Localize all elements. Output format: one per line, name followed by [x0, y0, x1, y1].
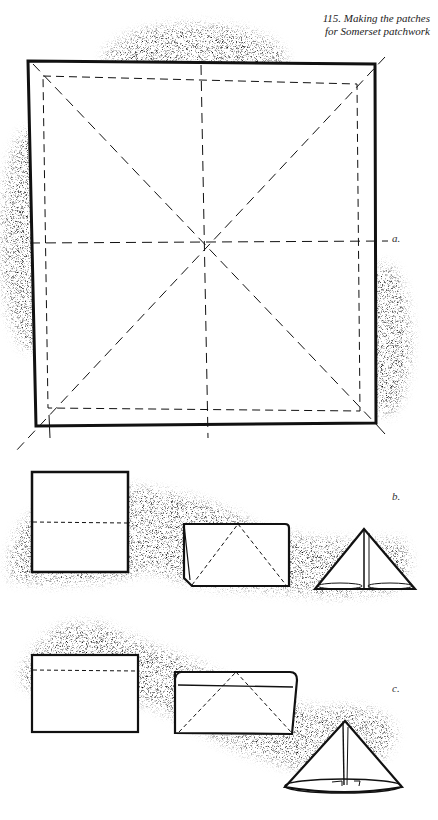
caption-line-2: for Somerset patchwork: [323, 25, 430, 38]
figure-c-folded-rectangle: [175, 672, 297, 734]
figure-a-square: [15, 57, 388, 452]
figure-b-folded-rectangle: [184, 524, 289, 586]
caption-line-1: 115. Making the patches: [323, 12, 430, 25]
figure-caption: 115. Making the patches for Somerset pat…: [323, 12, 430, 38]
label-a: a.: [392, 232, 400, 244]
figure-b-square: [32, 472, 128, 572]
figure-c-rectangle: [32, 655, 138, 732]
label-c: c.: [392, 682, 400, 694]
label-b: b.: [392, 490, 400, 502]
illustration: [0, 0, 438, 820]
